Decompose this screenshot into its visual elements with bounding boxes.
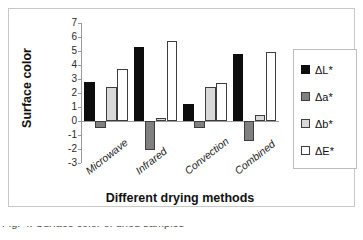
bar xyxy=(106,87,117,121)
y-tick-label: -2 xyxy=(68,144,77,154)
bar xyxy=(95,121,106,128)
bar xyxy=(255,115,266,121)
plot-area: 76543210-1-2-3 MicrowaveInfraredConvecti… xyxy=(81,23,279,163)
caption-strip: Fig. 4. Surface color of dried samples xyxy=(0,226,363,240)
chart-frame: Surface color 76543210-1-2-3 MicrowaveIn… xyxy=(8,8,355,207)
legend-label: ΔE* xyxy=(315,145,334,157)
y-tick-label: 4 xyxy=(71,60,77,70)
legend-swatch-icon xyxy=(301,65,310,74)
legend-item: Δb* xyxy=(301,110,356,137)
legend-swatch-icon xyxy=(301,146,310,155)
y-tick-label: -1 xyxy=(68,130,77,140)
bar xyxy=(156,118,167,122)
bar xyxy=(145,121,156,150)
legend-label: Δa* xyxy=(315,91,333,103)
y-tick-label: 2 xyxy=(71,88,77,98)
bar xyxy=(205,87,216,121)
legend-item: Δa* xyxy=(301,83,356,110)
figure-container: Surface color 76543210-1-2-3 MicrowaveIn… xyxy=(0,0,363,240)
bar xyxy=(117,69,128,121)
y-tick-mark xyxy=(78,163,81,164)
bar xyxy=(266,52,277,121)
x-axis-title: Different drying methods xyxy=(69,191,291,205)
bar xyxy=(233,54,244,121)
y-tick-label: 3 xyxy=(71,74,77,84)
legend-label: Δb* xyxy=(315,118,333,130)
y-tick-label: 5 xyxy=(71,46,77,56)
bar xyxy=(183,104,194,121)
bar xyxy=(216,83,227,121)
y-tick-label: 7 xyxy=(71,18,77,28)
y-tick-label: 1 xyxy=(71,102,77,112)
bar xyxy=(84,82,95,121)
y-tick-label: 6 xyxy=(71,32,77,42)
y-tick-label: -3 xyxy=(68,158,77,168)
legend-item: ΔL* xyxy=(301,56,356,83)
bar xyxy=(244,121,255,141)
y-axis-title: Surface color xyxy=(20,32,34,144)
legend-label: ΔL* xyxy=(315,64,333,76)
bar xyxy=(167,41,178,121)
bar-group xyxy=(131,23,181,163)
legend-swatch-icon xyxy=(301,119,310,128)
legend-swatch-icon xyxy=(301,92,310,101)
figure-caption: Fig. 4. Surface color of dried samples xyxy=(2,226,184,229)
bar xyxy=(194,121,205,128)
bar xyxy=(134,47,145,121)
chart-legend: ΔL*Δa*Δb*ΔE* xyxy=(293,49,357,169)
legend-item: ΔE* xyxy=(301,137,356,164)
y-tick-label: 0 xyxy=(71,116,77,126)
